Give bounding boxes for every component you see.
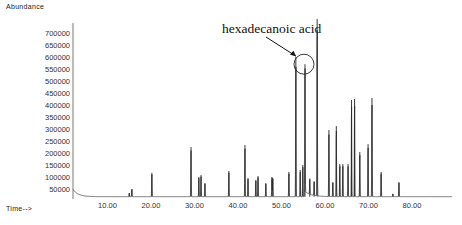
x-tick-label: 50.00 (272, 201, 291, 210)
x-tick-label: 20.00 (142, 201, 161, 210)
y-tick-label: 500000 (45, 77, 70, 86)
y-tick-label: 350000 (45, 113, 70, 122)
y-tick-label: 550000 (45, 65, 70, 74)
x-tick-label: 40.00 (229, 201, 248, 210)
y-tick-label: 200000 (45, 149, 70, 158)
y-tick-label: 400000 (45, 101, 70, 110)
y-axis: 5000010000015000020000025000030000035000… (45, 23, 73, 199)
y-tick-label: 700000 (45, 29, 70, 38)
x-tick-label: 70.00 (359, 201, 378, 210)
x-tick-label: 60.00 (316, 201, 335, 210)
y-tick-label: 650000 (45, 41, 70, 50)
y-tick-label: 150000 (45, 161, 70, 170)
x-tick-label: 10.00 (98, 201, 117, 210)
y-tick-label: 50000 (49, 185, 70, 194)
y-tick-label: 450000 (45, 89, 70, 98)
x-tick-label: 80.00 (403, 201, 422, 210)
y-tick-label: 300000 (45, 125, 70, 134)
chromatogram-plot: 5000010000015000020000025000030000035000… (0, 0, 462, 225)
y-tick-label: 600000 (45, 53, 70, 62)
highlight-circle-icon (294, 54, 314, 74)
chromatogram-trace (73, 19, 452, 197)
annotation-marker (266, 37, 314, 74)
x-axis: 10.0020.0030.0040.0050.0060.0070.0080.00 (98, 201, 421, 210)
y-tick-label: 250000 (45, 137, 70, 146)
y-tick-label: 100000 (45, 173, 70, 182)
x-tick-label: 30.00 (185, 201, 204, 210)
